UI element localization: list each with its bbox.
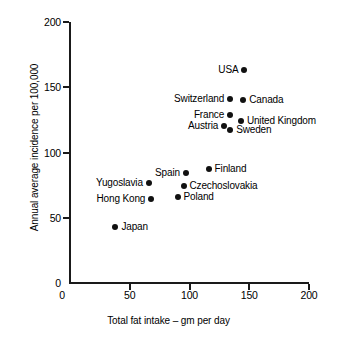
data-point-label: Austria	[188, 121, 218, 131]
x-tick-label: 150	[229, 290, 269, 301]
data-point-label: Finland	[215, 164, 247, 174]
y-axis-title: Annual average incidence per 100,000	[29, 28, 40, 268]
data-point-label: Canada	[249, 95, 283, 105]
y-tick	[63, 86, 69, 88]
data-point-label: Switzerland	[174, 94, 224, 104]
y-tick-label: 200	[33, 17, 61, 28]
data-point-label: Yugoslavia	[96, 178, 143, 188]
data-point-marker	[206, 166, 212, 172]
x-axis-title: Total fat intake – gm per day	[0, 315, 337, 326]
data-point-marker	[112, 224, 118, 230]
y-tick	[63, 21, 69, 23]
x-tick-label: 200	[289, 290, 329, 301]
y-tick	[63, 217, 69, 219]
x-tick-label: 100	[170, 290, 210, 301]
data-point-marker	[148, 196, 154, 202]
data-point-label: Hong Kong	[97, 194, 146, 204]
data-point-marker	[227, 112, 233, 118]
data-point-marker	[183, 170, 189, 176]
data-point-label: USA	[218, 65, 238, 75]
data-point-label: Spain	[155, 168, 180, 178]
data-point-marker	[181, 183, 187, 189]
data-point-marker	[238, 118, 244, 124]
data-point-label: Japan	[121, 222, 148, 232]
y-tick	[63, 152, 69, 154]
data-point-label: Czechoslovakia	[190, 181, 258, 191]
data-point-label: Poland	[184, 192, 214, 202]
data-point-marker	[175, 194, 181, 200]
data-point-marker	[227, 96, 233, 102]
data-point-marker	[241, 67, 247, 73]
scatter-plot: 050100150200 050100150200 USASwitzerland…	[0, 0, 337, 346]
data-point-label: France	[194, 110, 224, 120]
x-tick-label: 0	[42, 290, 82, 301]
data-point-label: Sweden	[236, 125, 271, 135]
y-axis-line	[69, 22, 71, 284]
data-point-marker	[240, 97, 246, 103]
x-tick-label: 50	[110, 290, 150, 301]
y-tick-label: 0	[33, 278, 61, 289]
data-point-marker	[146, 180, 152, 186]
data-point-marker	[227, 127, 233, 133]
